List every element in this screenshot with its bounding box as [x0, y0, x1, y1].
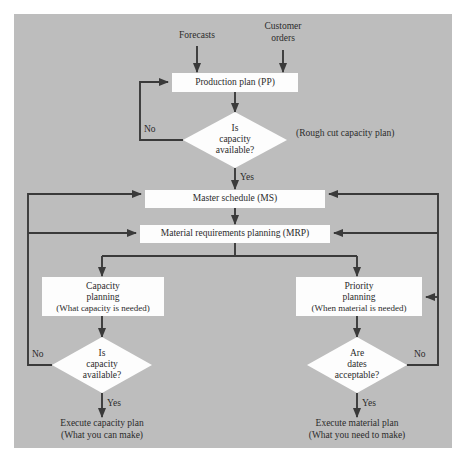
label-rough-cut-line1: Is — [232, 123, 239, 133]
label-priority-planning-line1: Priority — [344, 281, 373, 291]
label-dates-check-line2: dates — [347, 359, 367, 369]
label-customer-orders-line1: Customer — [265, 21, 303, 31]
flowchart-svg: Forecasts Customer orders Production pla… — [0, 0, 465, 458]
label-production-plan: Production plan (PP) — [195, 77, 275, 88]
label-priority-planning-line2: planning — [342, 292, 375, 302]
label-capacity-check-line3: available? — [83, 370, 122, 380]
label-mrp: Material requirements planning (MRP) — [161, 228, 310, 239]
label-forecasts: Forecasts — [179, 30, 215, 40]
label-capacity-planning-line1: Capacity — [86, 281, 120, 291]
label-priority-planning-line3: (When material is needed) — [311, 303, 406, 313]
label-no-left: No — [32, 349, 44, 359]
label-capacity-check-line1: Is — [99, 348, 106, 358]
label-execute-capacity-line2: (What you can make) — [61, 430, 143, 441]
annotation-rough-cut-capacity-plan: (Rough cut capacity plan) — [296, 128, 394, 139]
label-customer-orders-line2: orders — [271, 33, 295, 43]
label-rough-cut-line3: available? — [216, 145, 255, 155]
label-dates-check-line1: Are — [350, 348, 364, 358]
label-no-right: No — [414, 349, 426, 359]
label-capacity-check-line2: capacity — [86, 359, 118, 369]
label-yes-top: Yes — [240, 172, 254, 182]
label-capacity-planning-line2: planning — [86, 292, 119, 302]
label-yes-left: Yes — [107, 398, 121, 408]
label-master-schedule: Master schedule (MS) — [193, 193, 277, 204]
label-capacity-planning-line3: (What capacity is needed) — [56, 303, 150, 313]
label-execute-material-line1: Execute material plan — [316, 418, 399, 428]
label-rough-cut-line2: capacity — [219, 134, 251, 144]
flowchart-page: Forecasts Customer orders Production pla… — [0, 0, 465, 458]
label-yes-right: Yes — [362, 398, 376, 408]
label-no-top: No — [144, 124, 156, 134]
label-execute-capacity-line1: Execute capacity plan — [60, 418, 144, 428]
label-execute-material-line2: (What you need to make) — [309, 430, 406, 441]
label-dates-check-line3: acceptable? — [335, 370, 379, 380]
